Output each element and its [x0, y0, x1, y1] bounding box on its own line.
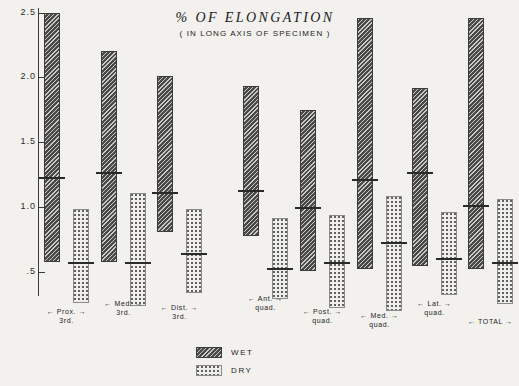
bar-wet-3: [157, 76, 173, 231]
mean-line-dry-1: [68, 262, 94, 264]
mean-line-wet-6: [352, 179, 378, 181]
bar-dry-1: [73, 209, 89, 304]
bar-wet-4: [243, 86, 259, 236]
y-tick-label-wrap-0-5: .5: [0, 266, 36, 278]
bar-wet-2: [101, 51, 117, 262]
y-tick-label-wrap-1-0: 1.0: [0, 201, 36, 213]
bar-dry-3: [186, 209, 202, 293]
y-tick-0-5: [38, 272, 45, 273]
bar-wet-5: [300, 110, 316, 271]
legend: WET DRY: [196, 345, 254, 381]
legend-label-wet: WET: [231, 348, 254, 357]
y-tick-label-1-0: 1.0: [20, 201, 36, 211]
legend-label-dry: DRY: [231, 366, 253, 375]
y-axis-line: [38, 8, 39, 296]
bar-dry-7: [441, 212, 457, 295]
bar-dry-4: [272, 218, 288, 300]
y-tick-label-wrap-2-5: 2.5: [0, 7, 36, 19]
y-tick-label-2-5: 2.5: [20, 7, 36, 17]
bar-dry-6: [386, 196, 402, 311]
legend-swatch-dry-icon: [196, 365, 222, 376]
mean-line-wet-2: [96, 172, 122, 174]
y-tick-label-wrap-2-0: 2.0: [0, 71, 36, 83]
y-tick-label-1-5: 1.5: [20, 136, 36, 146]
plot-area: % OF ELONGATION ( IN LONG AXIS OF SPECIM…: [0, 0, 519, 386]
x-axis-label-3: ← Dist. →3rd.: [140, 303, 220, 321]
mean-line-wet-3: [152, 192, 178, 194]
mean-line-dry-6: [381, 242, 407, 244]
legend-item-dry: DRY: [196, 363, 254, 377]
bar-wet-1: [44, 13, 60, 262]
mean-line-wet-1: [39, 177, 65, 179]
mean-line-dry-3: [181, 253, 207, 255]
bar-wet-8: [468, 18, 484, 269]
title-block: % OF ELONGATION ( IN LONG AXIS OF SPECIM…: [140, 10, 370, 38]
bar-wet-6: [357, 18, 373, 269]
mean-line-wet-7: [407, 172, 433, 174]
mean-line-dry-8: [492, 262, 518, 264]
mean-line-dry-2: [125, 262, 151, 264]
y-tick-label-wrap-1-5: 1.5: [0, 136, 36, 148]
chart-subtitle: ( IN LONG AXIS OF SPECIMEN ): [140, 29, 370, 38]
mean-line-dry-5: [324, 262, 350, 264]
legend-swatch-wet-icon: [196, 347, 222, 358]
bar-wet-7: [412, 88, 428, 265]
mean-line-dry-7: [436, 258, 462, 260]
elongation-chart: % OF ELONGATION ( IN LONG AXIS OF SPECIM…: [0, 0, 519, 386]
x-axis-label-8: ← TOTAL →: [451, 317, 519, 326]
bar-dry-2: [130, 193, 146, 306]
bar-dry-8: [497, 199, 513, 304]
y-tick-label-0-5: .5: [26, 266, 36, 276]
y-tick-label-2-0: 2.0: [20, 71, 36, 81]
mean-line-wet-4: [238, 190, 264, 192]
mean-line-wet-5: [295, 207, 321, 209]
chart-title: % OF ELONGATION: [140, 10, 370, 26]
legend-item-wet: WET: [196, 345, 254, 359]
mean-line-wet-8: [463, 205, 489, 207]
mean-line-dry-4: [267, 268, 293, 270]
x-axis-label-7: ← Lat. →quad.: [395, 299, 475, 317]
